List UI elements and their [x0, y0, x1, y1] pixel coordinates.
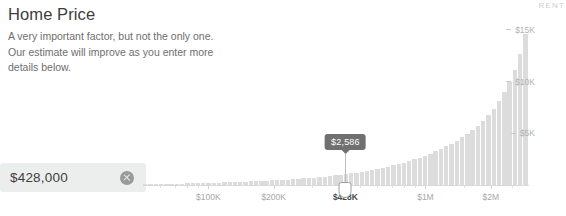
- bar: [407, 161, 411, 185]
- bar: [402, 163, 406, 185]
- bar: [492, 109, 496, 185]
- x-axis-minor-tick: [175, 186, 176, 188]
- bar: [328, 176, 332, 185]
- y-tick-dash: [506, 29, 511, 30]
- home-price-estimator: Home Price A very important factor, but …: [0, 0, 566, 216]
- x-axis-minor-tick: [512, 186, 513, 188]
- x-axis-minor-tick: [187, 186, 188, 188]
- y-tick-label: $5K: [520, 128, 535, 138]
- price-slider-handle[interactable]: [339, 182, 352, 198]
- plot-area: [143, 4, 529, 185]
- bar: [481, 121, 485, 185]
- bar: [449, 144, 453, 185]
- bar: [354, 173, 358, 185]
- bar: [333, 175, 337, 185]
- x-axis-tick: [425, 186, 426, 189]
- y-axis-tick: $10K: [506, 77, 535, 87]
- bar: [412, 159, 416, 185]
- bar: [423, 156, 427, 185]
- x-tick-label: $1M: [417, 192, 434, 202]
- x-axis-minor-tick: [464, 186, 465, 188]
- bar-series: [143, 4, 529, 185]
- bar: [397, 164, 401, 185]
- x-axis-minor-tick: [360, 186, 361, 188]
- home-price-field[interactable]: $428,000: [0, 163, 146, 192]
- bar: [518, 54, 522, 185]
- rent-estimate-tooltip: $2,586: [325, 134, 366, 150]
- bar: [455, 141, 459, 185]
- x-axis-minor-tick: [415, 186, 416, 188]
- y-axis-tick: $15K: [506, 25, 535, 35]
- bar: [433, 151, 437, 185]
- bar: [428, 154, 432, 185]
- bar: [360, 172, 364, 185]
- bar: [465, 134, 469, 185]
- y-tick-dash: [511, 133, 516, 134]
- x-axis-tick: [208, 186, 209, 189]
- y-axis-title: RENT: [538, 1, 565, 10]
- clear-circle-icon[interactable]: [120, 171, 134, 185]
- x-axis-minor-tick: [404, 186, 405, 188]
- x-axis-tick: [274, 186, 275, 189]
- bar: [301, 178, 305, 185]
- bar: [444, 146, 448, 185]
- y-tick-label: $10K: [515, 77, 535, 87]
- bar: [323, 177, 327, 185]
- x-axis-minor-tick: [160, 186, 161, 188]
- bar: [497, 101, 501, 185]
- x-axis-minor-tick: [377, 186, 378, 188]
- y-tick-dash: [506, 81, 511, 82]
- bar: [418, 158, 422, 185]
- home-price-input[interactable]: $428,000: [10, 170, 120, 185]
- bar: [460, 137, 464, 185]
- x-axis-line: [143, 185, 529, 186]
- bar: [386, 167, 390, 185]
- y-tick-label: $15K: [515, 25, 535, 35]
- bar: [486, 115, 490, 185]
- y-axis-tick: $5K: [511, 128, 535, 138]
- x-tick-label: $200K: [261, 192, 286, 202]
- bar: [317, 177, 321, 185]
- x-axis-minor-tick: [392, 186, 393, 188]
- bar: [439, 149, 443, 185]
- bar: [470, 130, 474, 185]
- bar: [365, 171, 369, 185]
- bar: [502, 92, 506, 185]
- x-axis-minor-tick: [312, 186, 313, 188]
- bar: [312, 178, 316, 185]
- x-tick-label: $2M: [482, 192, 499, 202]
- bar: [381, 168, 385, 185]
- bar: [476, 126, 480, 185]
- marker-line: [345, 154, 346, 185]
- x-axis-minor-tick: [198, 186, 199, 188]
- rent-distribution-chart: RENT $5K$10K$15K $100K$200K$428K$1M$2M $…: [143, 0, 566, 216]
- bar: [307, 178, 311, 185]
- bar: [391, 165, 395, 185]
- bar: [375, 169, 379, 185]
- x-axis-tick: [491, 186, 492, 189]
- bar: [523, 34, 527, 185]
- bar: [370, 170, 374, 185]
- x-tick-label: $100K: [196, 192, 221, 202]
